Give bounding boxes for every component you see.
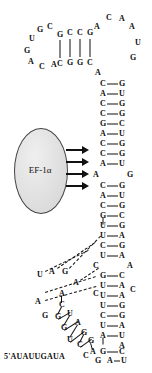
nucleotide-s4b: C [87,59,93,67]
nucleotide-il1: A [93,171,99,179]
nucleotide-q8l: U [100,252,106,260]
nucleotide-p6r: U [119,130,125,138]
nucleotide-q1l: C [100,182,106,190]
pseudoknot-line [45,286,96,301]
base-pair-bond [107,144,118,145]
base-pair-bond [114,361,120,362]
nucleotide-il2: G [127,171,133,179]
nucleotide-q2l: A [100,192,106,200]
nucleotide-p1l: C [100,80,106,88]
nucleotide-n4: G [24,47,30,55]
nucleotide-n1: U [29,35,35,43]
base-pair-bond-vertical [70,39,71,57]
base-pair-bond [107,296,118,297]
nucleotide-s3b: G [77,59,83,67]
base-pair-bond [107,316,118,317]
base-pair-bond-vertical [80,39,81,57]
nucleotide-p9l: A [100,160,106,168]
nucleotide-r5l: C [100,312,106,320]
nucleotide-p5l: G [100,120,106,128]
nucleotide-q6r: A [119,232,125,240]
nucleotide-p3l: C [100,100,106,108]
nucleotide-p7r: G [119,140,125,148]
base-pair-bond [107,186,118,187]
nucleotide-r1l: G [100,272,106,280]
nucleotide-c1: A [35,298,41,306]
nucleotide-s1b: C [57,60,63,68]
nucleotide-s1t: G [57,31,63,39]
nucleotide-r2r: A [119,282,125,290]
nucleotide-r4r: G [119,302,125,310]
nucleotide-p9r: U [119,160,125,168]
nucleotide-r2l: U [100,282,106,290]
nucleotide-r9r: U [121,357,127,365]
nucleotide-r3l: U [100,292,106,300]
nucleotide-p8r: G [119,150,125,158]
nucleotide-q4r: C [119,212,125,220]
nucleotide-q7l: C [100,242,106,250]
nucleotide-n7: A [51,61,57,69]
arrow-head-icon [82,182,89,190]
base-pair-bond [107,236,118,237]
base-pair-bond [107,134,118,135]
base-pair-bond [107,286,118,287]
nucleotide-p2r: U [119,90,125,98]
nucleotide-s2t: C [67,29,73,37]
backbone-tick [103,338,104,345]
nucleotide-r6r: A [119,322,125,330]
base-pair-bond [107,216,118,217]
nucleotide-p2l: A [100,90,106,98]
nucleotide-q8r: A [119,252,125,260]
base-pair-bond [107,352,118,353]
nucleotide-q5r: G [119,222,125,230]
base-pair-bond [107,276,118,277]
nucleotide-p8l: C [100,150,106,158]
nucleotide-s2b: G [67,59,73,67]
nucleotide-t7: A [95,69,101,77]
nucleotide-pk2: A [127,262,133,270]
nucleotide-q7r: G [119,242,125,250]
nucleotide-s4t: G [87,29,93,37]
nucleotide-n2: G [37,26,43,34]
ef1alpha-label: EF-1α [14,128,66,212]
nucleotide-pk3: C [93,290,99,298]
nucleotide-r8r: C [119,348,125,356]
base-pair-bond [107,256,118,257]
base-pair-bond-vertical [60,40,61,58]
nucleotide-p4l: C [100,110,106,118]
base-pair-bond [107,326,118,327]
nucleotide-t2: C [106,14,112,22]
base-pair-bond [107,306,118,307]
base-pair-bond [107,336,118,337]
arrow-head-icon [82,170,89,178]
nucleotide-r3x: C [130,286,136,294]
base-pair-bond [107,246,118,247]
nucleotide-t5: U [135,39,141,47]
nucleotide-r3r: A [119,292,125,300]
nucleotide-n6: C [39,63,45,71]
nucleotide-c14: C [83,352,89,360]
nucleotide-b1: U [37,271,43,279]
nucleotide-r5r: G [119,312,125,320]
nucleotide-p1r: G [119,80,125,88]
base-pair-bond [107,206,118,207]
nucleotide-q3r: G [119,202,125,210]
base-pair-bond [107,226,118,227]
nucleotide-r7r: U [119,332,125,340]
nucleotide-p7l: C [100,140,106,148]
nucleotide-q3l: C [100,202,106,210]
nucleotide-p3r: G [119,100,125,108]
base-pair-bond [107,164,118,165]
base-pair-bond-vertical [90,39,91,57]
nucleotide-r9g: G [95,357,101,365]
arrow-head-icon [82,146,89,154]
loop-backbone [61,296,62,303]
nucleotide-q2r: U [119,192,125,200]
five-prime-sequence-label: 5'AUAUUGAUA [4,352,65,361]
pseudoknot-line [45,276,96,293]
nucleotide-n5: A [28,58,34,66]
nucleotide-r9l: A [107,357,113,365]
base-pair-bond [107,104,118,105]
backbone-tick [103,218,104,225]
rna-structure-diagram: EF-1α UGCGACAGCCGCGGCACAAUGACGAUCGCGGCAU… [0,0,152,373]
